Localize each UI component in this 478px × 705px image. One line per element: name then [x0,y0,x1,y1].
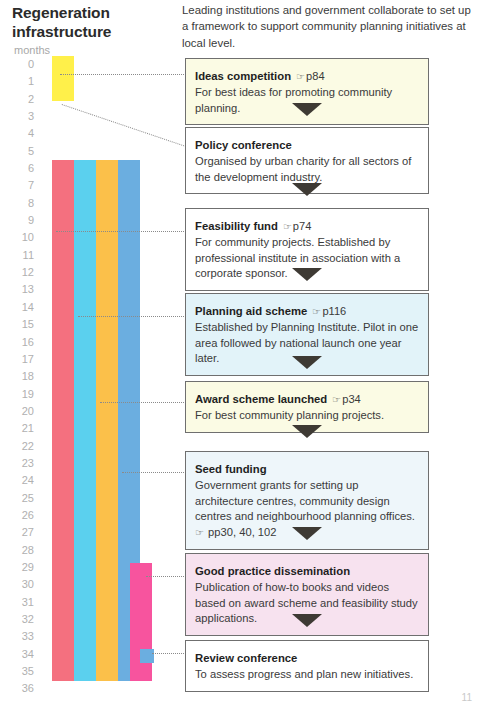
leader-ideas-competition [60,74,186,75]
intro-paragraph: Leading institutions and government coll… [182,2,474,51]
leader-review-conference [152,653,186,654]
pointing-hand-icon: ☞ [283,221,292,232]
step-header-award-scheme-launched: Award scheme launched☞p34 [195,389,419,407]
pointing-hand-icon: ☞ [332,394,341,405]
inline-page-ref-seed-funding: pp30, 40, 102 [205,526,277,538]
leader-planning-aid-scheme [78,316,186,317]
step-header-ideas-competition: Ideas competition☞p84 [195,66,419,84]
flow-arrow-3 [292,268,322,281]
step-title-review-conference: Review conference [195,652,297,664]
step-header-planning-aid-scheme: Planning aid scheme☞p116 [195,301,419,319]
step-header-good-practice-dissemination: Good practice dissemination [195,561,419,579]
award-scheme-bar [96,160,118,681]
flow-arrow-1 [292,103,322,116]
page-ref-ideas-competition[interactable]: p84 [306,70,325,82]
ideas-competition-bar [52,56,74,101]
page-ref-feasibility-fund[interactable]: p74 [293,220,312,232]
page-number: 11 [462,692,472,703]
timeline-bars [0,56,175,696]
axis-label-months: months [14,44,50,56]
page-title: Regeneration infrastructure [12,4,172,42]
step-description-policy-conference: Organised by urban charity for all secto… [195,154,419,185]
page-ref-award-scheme-launched[interactable]: p34 [342,393,361,405]
leader-seed-funding [122,472,186,473]
review-conference-bar [140,649,154,663]
flow-arrow-5 [292,425,322,438]
planning-aid-bar [74,160,96,681]
flow-arrow-2 [292,183,322,196]
inline-page-ref-wrapper-seed-funding[interactable]: ☞ pp30, 40, 102 [195,526,277,538]
step-description-text-seed-funding: Government grants for setting up archite… [195,479,415,522]
step-title-policy-conference: Policy conference [195,139,292,151]
leader-feasibility-fund [56,231,186,232]
page-ref-planning-aid-scheme[interactable]: p116 [322,305,346,317]
pointing-hand-icon: ☞ [312,306,321,317]
step-description-review-conference: To assess progress and plan new initiati… [195,667,419,683]
step-description-award-scheme-launched: For best community planning projects. [195,408,419,424]
leader-award-scheme [100,402,186,403]
flow-arrow-4 [292,356,322,369]
pointing-hand-icon: ☞ [296,71,305,82]
page-title-line-2: infrastructure [12,23,172,42]
step-title-good-practice-dissemination: Good practice dissemination [195,565,350,577]
step-header-review-conference: Review conference [195,648,419,666]
step-title-award-scheme-launched: Award scheme launched [195,393,327,405]
flow-arrow-7 [292,614,322,627]
pointing-hand-icon: ☞ [195,526,204,540]
page-title-line-1: Regeneration [12,4,172,23]
step-title-ideas-competition: Ideas competition [195,70,291,82]
step-box-review-conference[interactable]: Review conferenceTo assess progress and … [185,640,429,692]
feasibility-fund-bar [52,160,74,681]
step-title-planning-aid-scheme: Planning aid scheme [195,305,307,317]
step-title-seed-funding: Seed funding [195,463,267,475]
step-header-seed-funding: Seed funding [195,459,419,477]
step-header-policy-conference: Policy conference [195,135,419,153]
step-header-feasibility-fund: Feasibility fund☞p74 [195,216,419,234]
leader-good-practice [146,576,186,577]
flow-arrow-6 [292,527,322,540]
step-title-feasibility-fund: Feasibility fund [195,220,278,232]
